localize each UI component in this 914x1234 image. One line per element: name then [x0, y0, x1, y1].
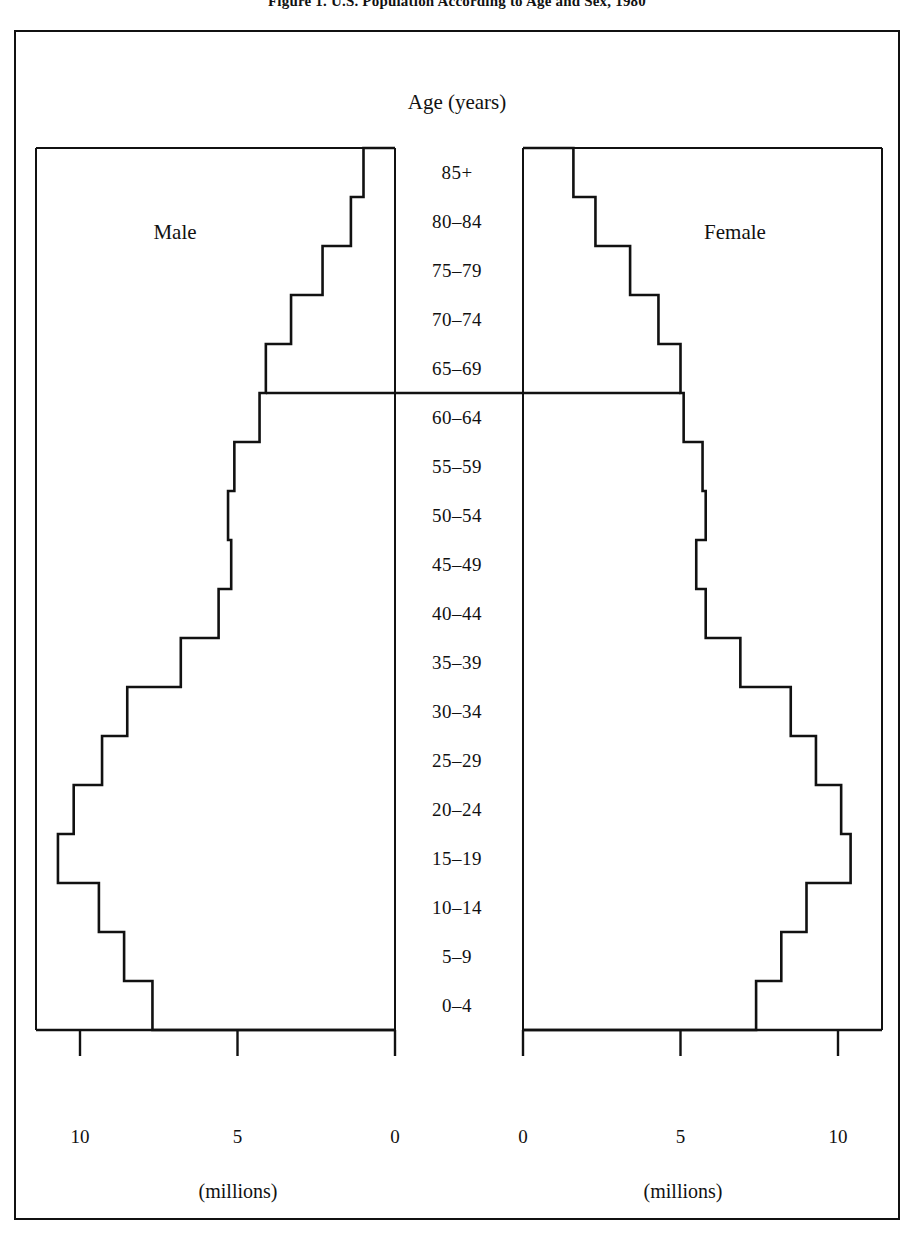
axis-title-age: Age (years): [0, 90, 914, 115]
age-group-label: 35–39: [399, 652, 515, 674]
unit-label-left: (millions): [199, 1180, 278, 1203]
male-axis-tick-label: 5: [233, 1126, 243, 1148]
age-group-label: 70–74: [399, 309, 515, 331]
figure-border: [14, 30, 900, 1220]
age-group-label: 60–64: [399, 407, 515, 429]
age-group-label: 10–14: [399, 897, 515, 919]
male-axis-tick-label: 0: [390, 1126, 400, 1148]
male-axis-tick-label: 10: [71, 1126, 90, 1148]
female-axis-tick-label: 0: [518, 1126, 528, 1148]
age-group-label: 20–24: [399, 799, 515, 821]
female-axis-tick-label: 10: [829, 1126, 848, 1148]
age-group-label: 45–49: [399, 554, 515, 576]
age-group-label: 50–54: [399, 505, 515, 527]
age-group-label: 40–44: [399, 603, 515, 625]
female-axis-tick-label: 5: [676, 1126, 686, 1148]
age-group-label: 5–9: [399, 946, 515, 968]
age-group-label: 0–4: [399, 995, 515, 1017]
unit-label-right: (millions): [644, 1180, 723, 1203]
age-group-label: 30–34: [399, 701, 515, 723]
age-group-label: 55–59: [399, 456, 515, 478]
age-group-label: 25–29: [399, 750, 515, 772]
figure-title: Figure 1. U.S. Population According to A…: [0, 0, 914, 10]
age-group-label: 80–84: [399, 211, 515, 233]
panel-label-male: Male: [153, 220, 196, 245]
age-group-label: 75–79: [399, 260, 515, 282]
panel-label-female: Female: [704, 220, 766, 245]
age-group-label: 65–69: [399, 358, 515, 380]
age-group-label: 85+: [399, 162, 515, 184]
age-group-label: 15–19: [399, 848, 515, 870]
